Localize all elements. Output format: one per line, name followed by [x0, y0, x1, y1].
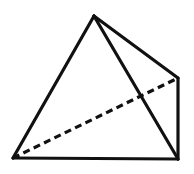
diagram-background: [0, 0, 194, 174]
figure-container: [0, 0, 194, 174]
edge-front-left-to-front-right: [13, 158, 178, 159]
tetrahedron-diagram: [0, 0, 194, 174]
